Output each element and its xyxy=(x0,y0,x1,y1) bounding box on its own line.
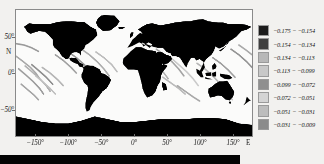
legend-row: −0.072 − −0.051 xyxy=(258,91,322,104)
x-axis-label-150: 150° xyxy=(227,139,240,147)
y-axis-label-neg50: −50° xyxy=(0,106,14,114)
legend-swatch xyxy=(258,105,269,116)
legend-label: −0.134 − −0.113 xyxy=(273,54,315,61)
x-axis-label-neg150: −150° xyxy=(26,139,44,147)
legend-label: −0.154 − −0.134 xyxy=(273,41,315,48)
legend-label: −0.113 − −0.099 xyxy=(273,67,315,74)
y-axis-label-0: 0° xyxy=(8,69,14,77)
legend-row: −0.099 − −0.072 xyxy=(258,78,322,91)
legend-row: −0.175 − −0.154 xyxy=(258,24,322,37)
y-axis-letter-north: N xyxy=(6,48,11,56)
legend-label: −0.051 − −0.031 xyxy=(273,108,315,115)
legend-row: −0.051 − −0.031 xyxy=(258,104,322,117)
world-map-panel xyxy=(15,9,253,137)
legend-row: −0.134 − −0.113 xyxy=(258,51,322,64)
x-axis-label-50: 50° xyxy=(162,139,171,147)
legend-row: −0.031 − −0.009 xyxy=(258,118,322,131)
x-axis-label-neg100: −100° xyxy=(59,139,77,147)
x-axis-label-0: 0° xyxy=(131,139,137,147)
x-axis-label-100: 100° xyxy=(194,139,207,147)
legend-swatch xyxy=(258,92,269,103)
legend-swatch xyxy=(258,119,269,130)
y-axis-label-50: 50° xyxy=(5,33,14,41)
legend-label: −0.072 − −0.051 xyxy=(273,94,315,101)
x-axis-letter-east: E xyxy=(246,139,250,147)
legend-row: −0.113 − −0.099 xyxy=(258,64,322,77)
bottom-black-bar xyxy=(0,155,240,164)
x-tick-mark-neg100 xyxy=(68,134,69,137)
figure-container: 50° N 0° −50° −150° −100° −50° 0° 50° 10… xyxy=(0,0,324,164)
x-tick-mark-50 xyxy=(167,134,168,137)
x-tick-mark-neg50 xyxy=(101,134,102,137)
legend-swatch xyxy=(258,65,269,76)
world-map-canvas xyxy=(16,10,252,136)
legend-swatch xyxy=(258,25,269,36)
x-tick-mark-neg150 xyxy=(35,134,36,137)
legend-label: −0.031 − −0.009 xyxy=(273,121,315,128)
x-tick-mark-0 xyxy=(134,134,135,137)
legend-swatch xyxy=(258,38,269,49)
x-tick-mark-100 xyxy=(200,134,201,137)
x-axis-label-neg50: −50° xyxy=(94,139,108,147)
legend-swatch xyxy=(258,52,269,63)
x-tick-mark-150 xyxy=(233,134,234,137)
legend-swatch xyxy=(258,79,269,90)
legend-label: −0.175 − −0.154 xyxy=(273,27,315,34)
legend-label: −0.099 − −0.072 xyxy=(273,81,315,88)
value-class-legend: −0.175 − −0.154 −0.154 − −0.134 −0.134 −… xyxy=(258,24,322,131)
legend-row: −0.154 − −0.134 xyxy=(258,37,322,50)
